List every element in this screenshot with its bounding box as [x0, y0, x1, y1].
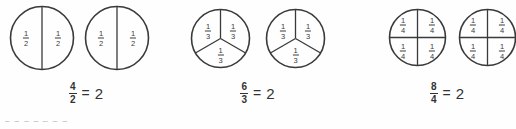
fraction-circle-halves-1: 1 2 1 2: [9, 5, 75, 71]
slice-label: 1 2: [55, 30, 61, 47]
slice-label: 1 3: [280, 23, 286, 40]
slice-label: 1 4: [499, 17, 505, 34]
slice-label: 1 4: [470, 17, 476, 34]
equation-thirds: 6 3 = 2: [180, 82, 335, 105]
fraction-diagram-page: 1 2 1 2 1: [0, 0, 516, 129]
equation-quarters: 8 4 = 2: [378, 82, 516, 105]
slice-label: 1 3: [292, 47, 298, 64]
fraction-circle-thirds-2: 1 3 1 3 1 3: [265, 8, 326, 69]
fraction-group-thirds: 1 3 1 3 1 3: [180, 0, 335, 129]
fraction-group-halves: 1 2 1 2 1: [0, 0, 172, 129]
slice-label: 1 4: [499, 43, 505, 60]
equation-result: 2: [456, 85, 464, 102]
circle-quarters-svg-1: [388, 8, 447, 67]
equals-sign: =: [253, 85, 261, 102]
clipped-next-line-text: 1 1 1 1 2 1 1: [4, 121, 68, 124]
fraction-circle-quarters-1: 1 4 1 4 1 4 1 4: [388, 8, 447, 67]
divider-lower-right: [221, 39, 246, 54]
slice-label: 1 4: [400, 17, 406, 34]
fraction-circle-thirds-1: 1 3 1 3 1 3: [190, 8, 251, 69]
clipped-next-line-row: 1 1 1 1 2 1 1: [0, 121, 516, 129]
equation-result: 2: [95, 85, 103, 102]
fraction-circle-halves-2: 1 2 1 2: [84, 5, 150, 71]
equation-fraction: 8 4: [430, 82, 438, 105]
circle-halves-svg-1: [9, 5, 75, 71]
slice-label: 1 2: [130, 30, 136, 47]
divider-lower-right: [296, 39, 321, 54]
circle-halves-svg-2: [84, 5, 150, 71]
slice-label: 1 3: [205, 23, 211, 40]
equation-fraction: 6 3: [240, 82, 248, 105]
circle-quarters-svg-2: [458, 8, 516, 67]
slice-label: 1 4: [400, 43, 406, 60]
slice-label: 1 3: [305, 23, 311, 40]
equals-sign: =: [443, 85, 451, 102]
slice-label: 1 4: [429, 43, 435, 60]
slice-label: 1 2: [23, 30, 29, 47]
equation-result: 2: [266, 85, 274, 102]
slice-label: 1 4: [470, 43, 476, 60]
equals-sign: =: [82, 85, 90, 102]
slice-label: 1 4: [429, 17, 435, 34]
fraction-circle-quarters-2: 1 4 1 4 1 4 1 4: [458, 8, 516, 67]
fraction-group-quarters: 1 4 1 4 1 4 1 4: [378, 0, 516, 129]
slice-label: 1 3: [217, 47, 223, 64]
equation-fraction: 4 2: [69, 82, 77, 105]
equation-halves: 4 2 = 2: [0, 82, 172, 105]
slice-label: 1 3: [230, 23, 236, 40]
slice-label: 1 2: [98, 30, 104, 47]
